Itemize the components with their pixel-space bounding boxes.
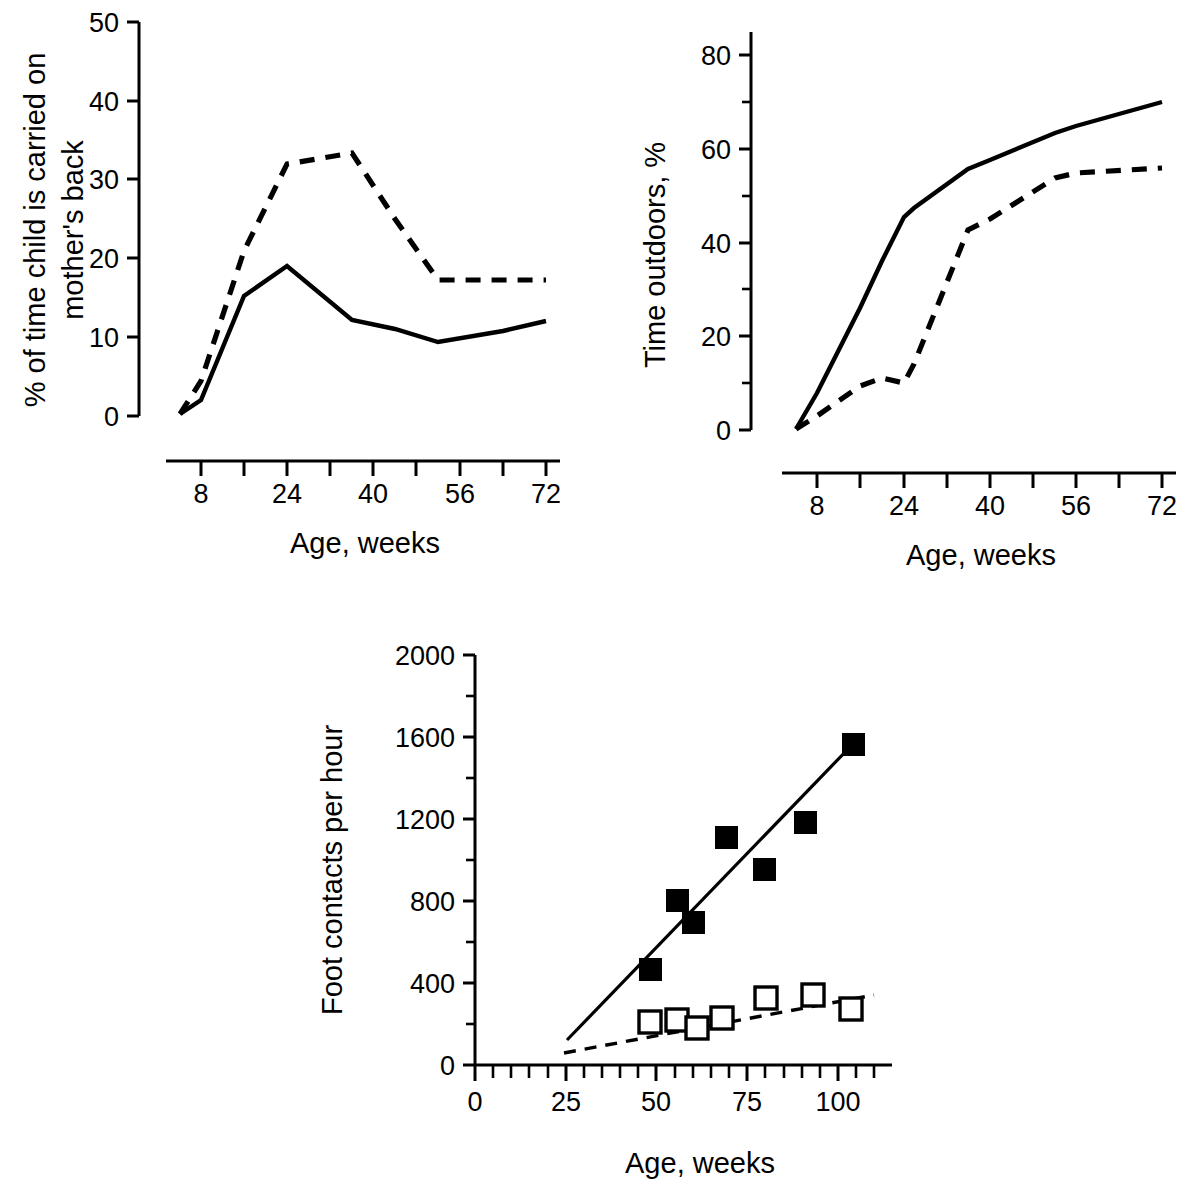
panel-c-y-ticks — [463, 655, 475, 1065]
panel-c-open-square-markers — [639, 984, 862, 1039]
panel-b-plot-area — [796, 102, 1162, 429]
panel-b-x-axis-title: Age, weeks — [906, 539, 1056, 571]
panel-a-ytick-30: 30 — [89, 165, 119, 195]
panel-c-ytick-0: 0 — [440, 1051, 455, 1081]
panel-c-ytick-1200: 1200 — [395, 805, 455, 835]
panel-b-ytick-80: 80 — [701, 41, 731, 71]
figure-container: % of time child is carried on mother's b… — [0, 0, 1188, 1188]
data-point-filled — [716, 827, 737, 848]
panel-c-xtick-0: 0 — [467, 1087, 482, 1117]
panel-c-ytick-1600: 1600 — [395, 723, 455, 753]
panel-a-ytick-40: 40 — [89, 87, 119, 117]
panel-a-ylabel-line-1: % of time child is carried on — [19, 53, 51, 408]
data-point-open — [755, 987, 777, 1009]
panel-c-xtick-50: 50 — [641, 1087, 671, 1117]
panel-b-solid-series — [796, 102, 1162, 429]
panel-c-ytick-2000: 2000 — [395, 641, 455, 671]
panel-a-y-ticks — [127, 22, 139, 416]
panel-b-ytick-60: 60 — [701, 135, 731, 165]
panel-c-ytick-400: 400 — [410, 969, 455, 999]
data-point-filled — [667, 890, 688, 911]
panel-c-svg: Foot contacts per hour 0 400 800 — [300, 610, 920, 1188]
panel-a-x-axis-title: Age, weeks — [290, 527, 440, 559]
panel-b-x-tick-labels: 8 24 40 56 72 — [809, 491, 1177, 521]
panel-a-ytick-0: 0 — [104, 402, 119, 432]
chart-panel-a: % of time child is carried on mother's b… — [0, 0, 600, 570]
data-point-filled — [843, 734, 864, 755]
panel-b-x-ticks — [817, 473, 1162, 488]
panel-a-ytick-20: 20 — [89, 244, 119, 274]
panel-c-x-ticks-minor — [493, 1065, 874, 1078]
panel-b-xtick-24: 24 — [889, 491, 919, 521]
panel-b-xtick-56: 56 — [1061, 491, 1091, 521]
data-point-filled — [795, 812, 816, 833]
panel-c-y-axis-title: Foot contacts per hour — [316, 725, 348, 1015]
panel-b-xtick-8: 8 — [809, 491, 824, 521]
panel-c-filled-square-markers — [640, 734, 864, 980]
panel-b-ytick-0: 0 — [716, 416, 731, 446]
panel-b-ytick-40: 40 — [701, 229, 731, 259]
panel-a-ylabel-line-2: mother's back — [57, 140, 89, 320]
panel-a-xtick-24: 24 — [272, 479, 302, 509]
panel-a-svg: % of time child is carried on mother's b… — [0, 0, 600, 570]
panel-a-xtick-56: 56 — [445, 479, 475, 509]
panel-c-xtick-75: 75 — [732, 1087, 762, 1117]
panel-c-y-tick-labels: 0 400 800 1200 1600 2000 — [395, 641, 455, 1081]
panel-b-y-tick-labels: 0 20 40 60 80 — [701, 41, 731, 446]
panel-a-plot-area — [180, 153, 546, 414]
panel-a-ytick-50: 50 — [89, 8, 119, 38]
panel-b-ytick-20: 20 — [701, 322, 731, 352]
panel-a-x-tick-labels: 8 24 40 56 72 — [193, 479, 561, 509]
data-point-open — [802, 984, 824, 1006]
panel-a-x-ticks — [201, 461, 546, 476]
panel-a-xtick-72: 72 — [531, 479, 561, 509]
data-point-filled — [683, 912, 704, 933]
data-point-open — [711, 1007, 733, 1029]
data-point-filled — [754, 859, 775, 880]
chart-panel-b: Time outdoors, % 0 20 40 60 80 — [600, 10, 1188, 580]
panel-a-dashed-series — [180, 153, 546, 414]
panel-c-x-tick-labels: 0 25 50 75 100 — [467, 1087, 860, 1117]
panel-c-xtick-25: 25 — [551, 1087, 581, 1117]
data-point-filled — [640, 959, 661, 980]
data-point-open — [686, 1017, 708, 1039]
data-point-open — [639, 1011, 661, 1033]
panel-c-x-axis-title: Age, weeks — [625, 1147, 775, 1179]
data-point-open — [840, 998, 862, 1020]
panel-b-dashed-series — [796, 168, 1162, 429]
chart-panel-c: Foot contacts per hour 0 400 800 — [300, 610, 920, 1188]
panel-c-ytick-800: 800 — [410, 887, 455, 917]
panel-a-xtick-8: 8 — [193, 479, 208, 509]
panel-c-xtick-100: 100 — [815, 1087, 860, 1117]
panel-a-solid-series — [180, 266, 546, 414]
panel-b-svg: Time outdoors, % 0 20 40 60 80 — [600, 10, 1188, 580]
panel-b-xtick-72: 72 — [1147, 491, 1177, 521]
panel-b-y-axis-title: Time outdoors, % — [639, 142, 671, 368]
panel-b-xtick-40: 40 — [975, 491, 1005, 521]
panel-a-xtick-40: 40 — [358, 479, 388, 509]
panel-b-y-ticks — [739, 55, 751, 430]
panel-a-y-tick-labels: 0 10 20 30 40 50 — [89, 8, 119, 432]
panel-a-ytick-10: 10 — [89, 323, 119, 353]
panel-a-y-axis-title: % of time child is carried on mother's b… — [19, 53, 89, 408]
